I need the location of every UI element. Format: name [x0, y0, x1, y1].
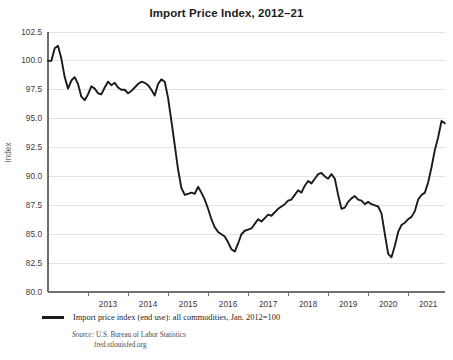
- gridlines: [48, 32, 445, 292]
- plot-area: 102.5100.097.595.092.590.087.585.082.580…: [0, 0, 453, 305]
- x-tick-label: 2014: [128, 299, 168, 309]
- source-primary-line: Source: U.S. Bureau of Labor Statistics: [72, 331, 186, 341]
- y-tick-label: 102.5: [2, 27, 42, 37]
- x-tick-label: 2018: [288, 299, 328, 309]
- y-tick-label: 82.5: [2, 258, 42, 268]
- chart-figure: Import Price Index, 2012–21 102.5100.097…: [0, 0, 453, 360]
- source-prefix: Source:: [72, 331, 94, 339]
- y-tick-label: 85.0: [2, 229, 42, 239]
- source-note: Source: U.S. Bureau of Labor Statistics …: [72, 331, 186, 351]
- x-tick-label: 2021: [408, 299, 448, 309]
- x-tick-label: 2020: [368, 299, 408, 309]
- source-organization: U.S. Bureau of Labor Statistics: [96, 331, 186, 339]
- x-tick-label: 2015: [168, 299, 208, 309]
- chart-legend: Import price index (end use): all commod…: [42, 313, 280, 322]
- chart-plot-svg: [0, 0, 453, 305]
- x-tick-label: 2017: [248, 299, 288, 309]
- source-url: fred.stlouisfed.org: [72, 341, 186, 351]
- axis-lines: [48, 32, 445, 292]
- y-axis-title: Index: [4, 123, 13, 183]
- legend-line-swatch: [42, 316, 64, 319]
- y-tick-label: 100.0: [2, 55, 42, 65]
- y-tick-label: 97.5: [2, 84, 42, 94]
- legend-entry-label: Import price index (end use): all commod…: [73, 313, 280, 322]
- data-series-group: [48, 46, 445, 257]
- data-series-line: [48, 46, 445, 257]
- x-tick-label: 2013: [88, 299, 128, 309]
- x-tick-label: 2016: [208, 299, 248, 309]
- x-tick-label: 2019: [328, 299, 368, 309]
- y-tick-label: 80.0: [2, 287, 42, 297]
- y-tick-label: 87.5: [2, 200, 42, 210]
